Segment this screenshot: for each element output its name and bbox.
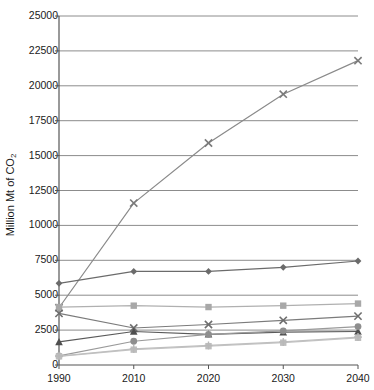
data-point-diamond [205, 268, 212, 275]
series-series-circle [56, 323, 362, 359]
data-point-x [280, 91, 287, 98]
data-point-circle [355, 323, 362, 330]
data-point-circle [130, 338, 137, 345]
data-point-x [130, 199, 137, 206]
data-point-diamond [130, 268, 137, 275]
data-point-circle [205, 331, 212, 338]
data-series-layer [55, 57, 362, 360]
axis-lines [55, 16, 358, 369]
series-line [59, 313, 358, 328]
data-point-square [56, 304, 62, 310]
data-point-x [205, 139, 212, 146]
series-series-square-light [56, 300, 361, 310]
data-point-diamond [56, 280, 63, 287]
data-point-square [205, 304, 211, 310]
data-point-square [355, 300, 361, 306]
gridlines [59, 16, 358, 330]
data-point-circle [280, 327, 287, 334]
data-point-x [354, 57, 361, 64]
data-point-square [131, 302, 137, 308]
data-point-square [280, 302, 286, 308]
data-point-diamond [355, 258, 362, 265]
series-series-x-lower [55, 310, 361, 332]
series-series-diamond [56, 258, 362, 287]
data-point-diamond [280, 264, 287, 271]
